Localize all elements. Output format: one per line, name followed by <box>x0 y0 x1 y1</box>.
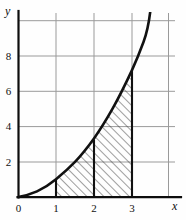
x-axis-label: x <box>172 200 177 212</box>
x-tick-3: 3 <box>125 203 139 214</box>
y-tick-2: 2 <box>2 157 15 168</box>
y-tick-8: 8 <box>2 51 15 62</box>
y-tick-6: 6 <box>2 86 15 97</box>
y-tick-4: 4 <box>2 121 15 132</box>
figure-container: y x 0 1 2 3 2 4 6 8 <box>0 0 186 220</box>
plot-area <box>0 0 186 220</box>
x-tick-2: 2 <box>87 203 101 214</box>
y-axis-label: y <box>5 5 10 17</box>
x-tick-0: 0 <box>12 203 25 214</box>
x-tick-1: 1 <box>49 203 63 214</box>
